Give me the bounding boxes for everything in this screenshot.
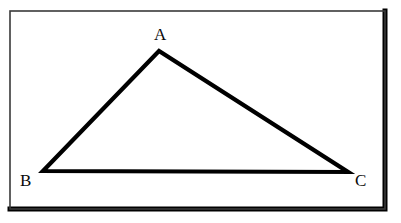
figure-canvas: A B C xyxy=(0,0,401,223)
vertex-label-b: B xyxy=(20,172,31,189)
vertex-label-c: C xyxy=(355,172,366,189)
vertex-label-a: A xyxy=(154,26,166,43)
triangle-figure-svg xyxy=(0,0,401,223)
figure-background xyxy=(0,0,401,223)
